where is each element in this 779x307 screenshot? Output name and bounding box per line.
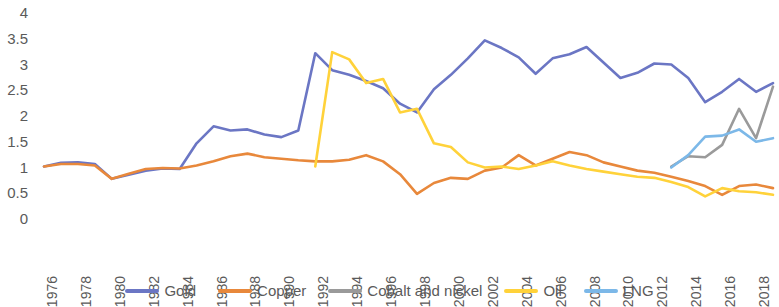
legend-color-swatch (328, 289, 362, 293)
legend-item[interactable]: LNG (584, 282, 654, 299)
y-axis-tick-label: 3 (20, 55, 28, 72)
plot-area (30, 0, 779, 230)
x-axis: 1976197819801982198419861988199019921994… (30, 230, 779, 278)
legend-color-swatch (218, 289, 252, 293)
legend-item[interactable]: Gold (125, 282, 196, 299)
legend-label: Oil (543, 282, 561, 299)
plot-svg (30, 0, 779, 230)
y-axis-tick-label: 3.5 (7, 29, 28, 46)
legend-label: Cobalt and nickel (367, 282, 482, 299)
y-axis-tick-label: 1 (20, 158, 28, 175)
y-axis: 00.511.522.533.54 (0, 0, 30, 230)
y-axis-tick-label: 4 (20, 4, 28, 21)
series-line-cobalt-and-nickel (671, 87, 773, 167)
legend-item[interactable]: Cobalt and nickel (328, 282, 482, 299)
legend-item[interactable]: Copper (218, 282, 306, 299)
series-line-copper (44, 152, 773, 195)
series-line-oil (315, 52, 773, 196)
legend-color-swatch (125, 289, 159, 293)
y-axis-tick-label: 0 (20, 210, 28, 227)
legend-label: Copper (257, 282, 306, 299)
chart-legend: GoldCopperCobalt and nickelOilLNG (0, 278, 779, 303)
y-axis-tick-label: 2.5 (7, 81, 28, 98)
legend-color-swatch (584, 289, 618, 293)
y-axis-tick-label: 1.5 (7, 132, 28, 149)
y-axis-tick-label: 0.5 (7, 184, 28, 201)
legend-label: Gold (164, 282, 196, 299)
legend-color-swatch (504, 289, 538, 293)
y-axis-tick-label: 2 (20, 107, 28, 124)
legend-item[interactable]: Oil (504, 282, 561, 299)
legend-label: LNG (623, 282, 654, 299)
